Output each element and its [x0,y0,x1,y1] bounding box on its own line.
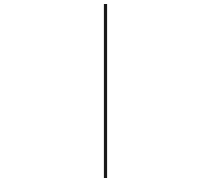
geometric-figure [0,0,218,184]
canvas-background [0,0,218,184]
figure-canvas [0,0,218,184]
